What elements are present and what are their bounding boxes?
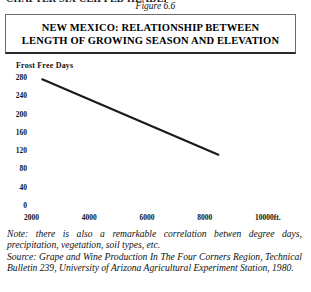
chart-series-svg [5,58,296,226]
chart-line-series [42,79,218,154]
page-title: NEW MEXICO: RELATIONSHIP BETWEEN LENGTH … [22,21,279,47]
source-text: Source: Grape and Wine Production In The… [7,251,302,273]
series-line-group [42,79,218,154]
chart-plot-area: Frost Free Days 04080120160200240280 200… [5,58,296,226]
figure-footnotes: Note: there is also a remarkable correla… [7,228,302,273]
figure-title-line-2: LENGTH OF GROWING SEASON AND ELEVATION [22,34,279,47]
figure-title-box: NEW MEXICO: RELATIONSHIP BETWEEN LENGTH … [5,14,296,54]
note-text: Note: there is also a remarkable correla… [7,228,302,250]
figure-caption: Figure 6.6 [0,1,311,11]
figure-title-line-1: NEW MEXICO: RELATIONSHIP BETWEEN [22,21,279,34]
